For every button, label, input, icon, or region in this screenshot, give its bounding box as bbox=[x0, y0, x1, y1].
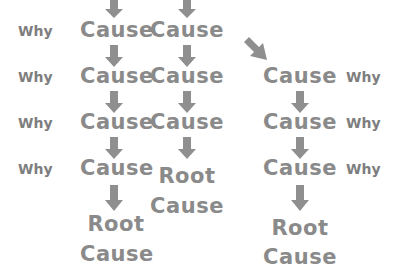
cause-c3-r1: Cause bbox=[262, 66, 338, 87]
cause-c3-r2: Cause bbox=[262, 112, 338, 133]
down-arrow-icon bbox=[177, 137, 197, 159]
root-cause-c3-line2: Cause bbox=[262, 247, 338, 268]
cause-c2-r3: Cause bbox=[150, 112, 224, 133]
why-label-right-3: Why bbox=[346, 162, 381, 176]
cause-c1-r2: Cause bbox=[80, 66, 152, 87]
cause-c1-r3: Cause bbox=[80, 112, 152, 133]
diagonal-arrow-icon bbox=[244, 37, 270, 63]
why-label-left-1: Why bbox=[18, 24, 53, 38]
cause-c1-r1: Cause bbox=[80, 20, 152, 41]
why-label-left-3: Why bbox=[18, 116, 53, 130]
why-label-left-2: Why bbox=[18, 70, 53, 84]
down-arrow-icon bbox=[290, 185, 310, 211]
cause-c2-r1: Cause bbox=[150, 20, 224, 41]
root-cause-c1-line2: Cause bbox=[80, 244, 152, 265]
cause-c1-r4: Cause bbox=[80, 158, 152, 179]
why-label-right-2: Why bbox=[346, 116, 381, 130]
root-cause-c2-line2: Cause bbox=[150, 196, 224, 217]
down-arrow-icon bbox=[104, 185, 124, 211]
cause-c2-r2: Cause bbox=[150, 66, 224, 87]
down-arrow-icon bbox=[104, 0, 124, 18]
why-label-right-1: Why bbox=[346, 70, 381, 84]
root-cause-c1-line1: Root bbox=[80, 214, 152, 235]
down-arrow-icon bbox=[177, 0, 197, 18]
why-label-left-4: Why bbox=[18, 162, 53, 176]
root-cause-c3-line1: Root bbox=[262, 218, 338, 239]
cause-c3-r3: Cause bbox=[262, 158, 338, 179]
root-cause-c2-line1: Root bbox=[150, 166, 224, 187]
